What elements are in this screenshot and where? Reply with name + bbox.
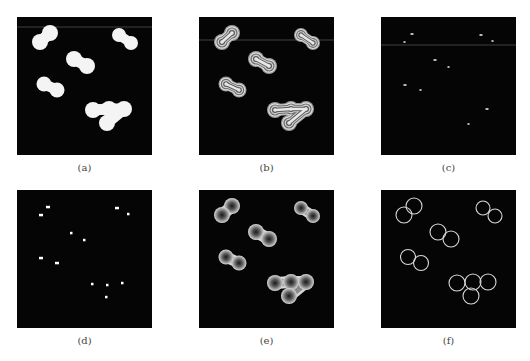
panel-d-image: [17, 190, 152, 328]
panel-f-image: [381, 190, 516, 328]
panel-e-image: [199, 190, 334, 328]
caption-c: (c): [381, 162, 516, 174]
panel-c-sparse-seeds: [381, 17, 516, 155]
caption-b: (b): [199, 162, 334, 174]
panel-a-image: [17, 17, 152, 155]
caption-a: (a): [17, 162, 152, 174]
panel-e-distance-map: [199, 190, 334, 328]
caption-d: (d): [17, 335, 152, 347]
panel-b-image: [199, 17, 334, 155]
panel-a-binary-mask: [17, 17, 152, 155]
caption-f: (f): [381, 335, 516, 347]
panel-f-segmented-outlines: [381, 190, 516, 328]
panel-d-seed-points: [17, 190, 152, 328]
panel-b-ring-contours: [199, 17, 334, 155]
panel-c-image: [381, 17, 516, 155]
caption-e: (e): [199, 335, 334, 347]
